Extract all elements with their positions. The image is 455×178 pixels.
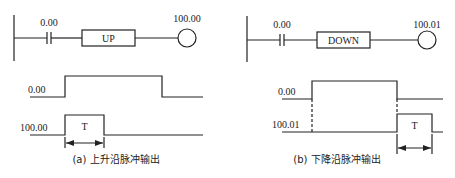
instruction-label: UP: [102, 33, 115, 44]
output-coil-icon: [178, 29, 196, 47]
ladder-rung-up: 0.00 UP 100.00: [14, 13, 201, 61]
ladder-rung-down: 0.00 DOWN 100.01: [247, 16, 441, 62]
instruction-label: DOWN: [328, 35, 359, 46]
input-signal-label: 0.00: [28, 84, 46, 95]
pulse-width-label: T: [411, 120, 417, 131]
input-waveform: [30, 76, 203, 97]
pulse-width-label: T: [81, 121, 87, 132]
input-waveform: [282, 81, 443, 99]
contact-label: 0.00: [273, 19, 291, 30]
output-coil-icon: [418, 31, 436, 49]
output-pulse-waveform: [30, 115, 203, 135]
no-contact-icon: [47, 32, 51, 44]
output-pulse-waveform: [282, 114, 443, 132]
input-signal-label: 0.00: [278, 86, 296, 97]
output-signal-label: 100.01: [272, 119, 300, 130]
caption-a: (a) 上升沿脉冲输出: [72, 153, 159, 165]
panel-b: 0.00 DOWN 100.01 0.00 100.01 T (b) 下降沿脉冲…: [247, 16, 443, 165]
coil-label: 100.00: [173, 13, 201, 24]
panel-a: 0.00 UP 100.00 0.00 100.00 T (a) 上升沿脉冲输出: [14, 13, 203, 165]
contact-label: 0.00: [40, 17, 58, 28]
no-contact-icon: [280, 34, 284, 46]
timing-chart-b: 0.00 100.01 T: [272, 81, 443, 154]
caption-b: (b) 下降沿脉冲输出: [293, 153, 380, 165]
timing-chart-a: 0.00 100.00 T: [20, 76, 203, 148]
output-signal-label: 100.00: [20, 122, 48, 133]
diagram-canvas: 0.00 UP 100.00 0.00 100.00 T (a) 上升沿脉冲输出: [0, 0, 455, 178]
coil-label: 100.01: [413, 19, 441, 30]
